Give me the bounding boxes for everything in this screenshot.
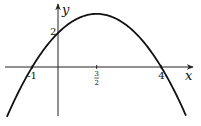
parabola-chart: x y -13242 [0, 0, 201, 126]
y-axis-label: y [61, 2, 70, 17]
x-tick-label-denominator: 2 [94, 79, 98, 87]
tick-group: -13242 [27, 26, 164, 87]
x-axis-label: x [185, 68, 193, 83]
x-tick-label-numerator: 3 [94, 70, 98, 78]
